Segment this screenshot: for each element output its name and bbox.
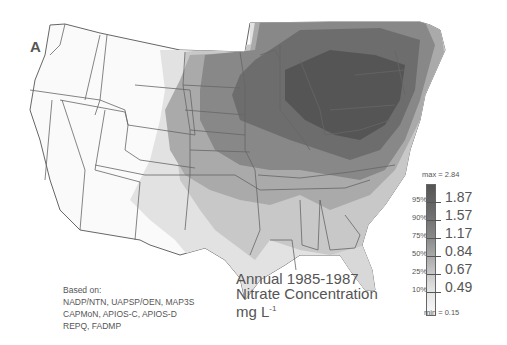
legend-class: 90% 1.57 (410, 207, 507, 225)
legend-class: 75% 1.17 (410, 225, 507, 243)
legend-value: 1.57 (445, 207, 472, 223)
legend-max-label: max = 2.84 (422, 170, 459, 179)
legend-tick (427, 274, 441, 275)
legend-percentile: 95% (410, 195, 427, 204)
legend-value: 0.67 (445, 261, 472, 277)
legend-percentile: 25% (410, 267, 427, 276)
legend-tick (427, 292, 441, 293)
legend-class: 95% 1.87 (410, 189, 507, 207)
legend-class: 50% 0.84 (410, 243, 507, 261)
units-exponent: -1 (269, 304, 276, 313)
legend-class: 10% 0.49 (410, 279, 507, 297)
legend-percentile: 10% (410, 285, 427, 294)
legend-value: 0.84 (445, 243, 472, 259)
legend-tick (427, 256, 441, 257)
title-line-2: Nitrate Concentration (236, 286, 378, 301)
credits-line: CAPMoN, APIOS-C, APIOS-D (63, 308, 194, 320)
data-source-credits: Based on: NADP/NTN, UAPSP/OEN, MAP3S CAP… (63, 284, 194, 332)
legend-value: 0.49 (445, 279, 472, 295)
concentration-legend: max = 2.84 95% 1.87 90% 1.57 75% 1.17 50… (410, 160, 507, 340)
legend-tick (427, 238, 441, 239)
legend-percentile: 90% (410, 213, 427, 222)
legend-class: 25% 0.67 (410, 261, 507, 279)
legend-min-label: min = 0.15 (424, 308, 459, 317)
legend-value: 1.17 (445, 225, 472, 241)
credits-line: REPQ, FADMP (63, 320, 194, 332)
legend-tick (427, 220, 441, 221)
units-label: mg L-1 (236, 301, 378, 319)
credits-line: NADP/NTN, UAPSP/OEN, MAP3S (63, 296, 194, 308)
legend-tick (427, 202, 441, 203)
units-text: mg L (236, 303, 269, 320)
credits-heading: Based on: (63, 284, 194, 296)
title-line-1: Annual 1985-1987 (236, 271, 378, 286)
legend-percentile: 50% (410, 249, 427, 258)
legend-percentile: 75% (410, 231, 427, 240)
map-title: Annual 1985-1987 Nitrate Concentration m… (236, 271, 378, 319)
legend-value: 1.87 (445, 189, 472, 205)
